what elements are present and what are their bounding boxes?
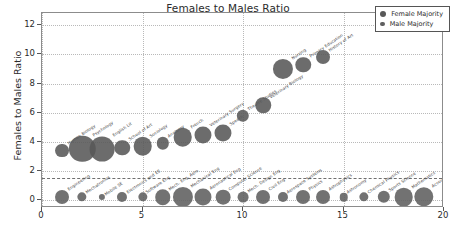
x-axis-tick-label: 20 (438, 210, 449, 220)
gridline-vertical (42, 13, 43, 206)
data-point[interactable] (216, 190, 231, 205)
x-axis-tick-label: 15 (337, 210, 348, 220)
data-point[interactable] (55, 190, 69, 204)
y-axis-tick-mark (37, 83, 41, 84)
y-axis-tick-label: 4 (9, 136, 35, 146)
data-point-label: Civil Eng (268, 177, 286, 192)
legend-label-female-majority: Female Majority (391, 10, 443, 18)
x-axis-tick-label: 5 (139, 210, 144, 220)
data-point[interactable] (115, 140, 131, 156)
gridline-horizontal (42, 54, 442, 55)
y-axis-tick-mark (37, 112, 41, 113)
data-point[interactable] (395, 188, 414, 207)
data-point[interactable] (339, 193, 348, 202)
y-axis-tick-mark (37, 24, 41, 25)
gridline-horizontal (42, 171, 442, 172)
y-axis-tick-label: 12 (9, 19, 35, 29)
legend[interactable]: Female Majority Male Majority (375, 6, 450, 32)
x-axis-tick-mark (142, 207, 143, 211)
data-point[interactable] (133, 137, 152, 156)
y-axis-tick-mark (37, 141, 41, 142)
data-point[interactable] (156, 137, 168, 149)
gridline-horizontal (42, 84, 442, 85)
x-axis-tick-label: 0 (38, 210, 43, 220)
data-point[interactable] (90, 137, 115, 162)
data-point[interactable] (237, 109, 249, 121)
y-axis-tick-label: 10 (9, 48, 35, 58)
x-axis-tick-label: 10 (237, 210, 248, 220)
x-axis-tick-mark (41, 207, 42, 211)
data-point[interactable] (173, 187, 193, 207)
y-axis-tick-mark (37, 199, 41, 200)
data-point[interactable] (194, 189, 211, 206)
x-axis-tick-mark (343, 207, 344, 211)
data-point-label: Psychology (92, 120, 115, 138)
data-point[interactable] (255, 98, 271, 114)
legend-marker-female-majority (380, 11, 386, 17)
y-axis-tick-mark (37, 170, 41, 171)
legend-marker-male-majority (380, 22, 385, 27)
data-point[interactable] (55, 144, 69, 158)
y-axis-tick-label: 6 (9, 107, 35, 117)
y-axis-tick-label: 2 (9, 165, 35, 175)
legend-item-female-majority[interactable]: Female Majority (380, 10, 443, 18)
x-axis-tick-mark (443, 207, 444, 211)
data-point[interactable] (377, 191, 389, 203)
data-point[interactable] (194, 126, 211, 143)
data-point[interactable] (296, 190, 310, 204)
legend-item-male-majority[interactable]: Male Majority (380, 20, 443, 28)
y-axis-tick-mark (37, 53, 41, 54)
data-point[interactable] (256, 190, 270, 204)
plot-area: Human BiologyPsychologyEnglish LitSchool… (41, 12, 443, 207)
data-point[interactable] (316, 190, 330, 204)
data-point[interactable] (316, 50, 330, 64)
data-point[interactable] (273, 59, 293, 79)
legend-label-male-majority: Male Majority (390, 20, 434, 28)
data-point[interactable] (296, 57, 312, 73)
y-axis-tick-label: 0 (9, 194, 35, 204)
y-axis-tick-label: 8 (9, 78, 35, 88)
data-point[interactable] (173, 128, 192, 147)
data-point[interactable] (414, 187, 433, 206)
x-axis-tick-mark (242, 207, 243, 211)
data-point[interactable] (214, 125, 231, 142)
chart-root: Females to Males Ratio Females to Males … (0, 0, 456, 238)
data-point[interactable] (155, 189, 171, 205)
data-point[interactable] (238, 192, 249, 203)
